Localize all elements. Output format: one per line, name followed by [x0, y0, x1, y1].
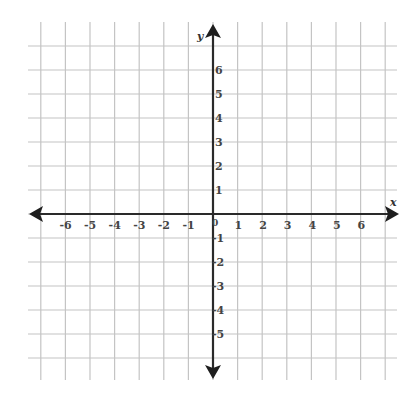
x-tick-label: -1 [182, 219, 194, 232]
x-tick-label: 6 [358, 219, 366, 232]
x-tick-label: -5 [84, 219, 96, 232]
x-tick-label: -6 [59, 219, 72, 232]
x-tick-label: 2 [259, 219, 267, 232]
y-tick-label: 2 [215, 160, 223, 173]
y-tick-label: -1 [212, 232, 224, 245]
y-tick-label: 6 [215, 64, 223, 77]
y-axis-label: y [196, 30, 205, 43]
x-tick-label: 5 [333, 219, 341, 232]
y-tick-label: 4 [215, 112, 223, 125]
y-tick-label: -2 [212, 256, 224, 269]
x-tick-label: -2 [158, 219, 170, 232]
x-axis-label: x [389, 196, 397, 209]
x-tick-label: 4 [308, 219, 316, 232]
x-tick-label: 1 [235, 219, 243, 232]
coordinate-plane: x y 0 -6-5-4-3-2-1123456 654321-1-2-3-4-… [0, 0, 415, 396]
y-tick-label: -3 [212, 280, 224, 293]
y-tick-label: 3 [215, 136, 223, 149]
x-tick-label: -4 [109, 219, 122, 232]
y-tick-label: 5 [215, 88, 223, 101]
y-tick-label: -4 [212, 304, 225, 317]
y-tick-label: -5 [212, 328, 224, 341]
origin-label: 0 [212, 218, 218, 228]
y-tick-label: 1 [215, 184, 223, 197]
x-tick-label: 3 [284, 219, 292, 232]
axes: x y 0 [29, 24, 399, 379]
x-tick-label: -3 [133, 219, 145, 232]
